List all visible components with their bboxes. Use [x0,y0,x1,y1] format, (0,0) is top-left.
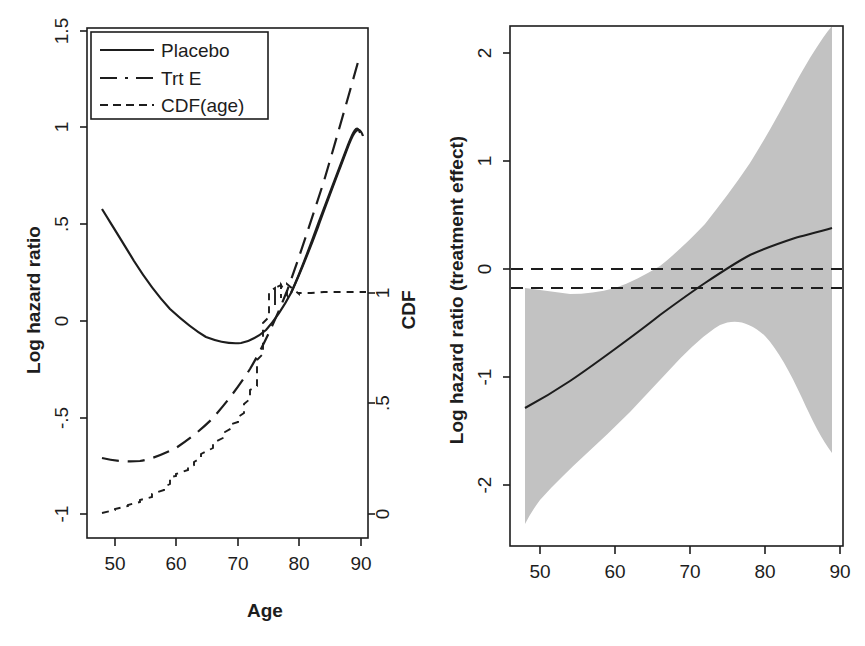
left-ytick-1: 1 [51,122,72,133]
left-ytick-neg1: -1 [51,506,72,523]
right-xtick-70: 70 [679,561,700,582]
left-ytick-p5: .5 [51,216,72,232]
legend-label-cdf-age: CDF(age) [161,95,244,116]
right-ytick-neg2: -2 [474,477,495,494]
left-xtick-60: 60 [165,553,186,574]
left-xtick-70: 70 [227,553,248,574]
legend-label-placebo: Placebo [161,40,230,61]
two-panel-figure: 1.5 1 .5 0 -.5 -1 Log hazard ratio 1 .5 … [0,0,865,646]
left-ytick-neg-p5: -.5 [51,407,72,429]
right-ytick-neg1: -1 [474,369,495,386]
left-panel-secondary-axis-title: CDF [398,290,419,329]
shared-x-axis-title: Age [247,600,283,621]
cdf-tick-0: 0 [372,509,393,520]
left-ytick-0: 0 [51,316,72,327]
right-xtick-90: 90 [829,561,850,582]
legend-label-trt-e: Trt E [161,68,201,89]
right-xtick-60: 60 [604,561,625,582]
right-ytick-2: 2 [474,48,495,59]
left-y-axis-title: Log hazard ratio [23,226,44,374]
right-ytick-1: 1 [474,156,495,167]
right-xtick-50: 50 [529,561,550,582]
right-ytick-0: 0 [474,264,495,275]
left-xtick-50: 50 [104,553,125,574]
left-ytick-1p5: 1.5 [51,18,72,44]
left-xtick-90: 90 [350,553,371,574]
left-panel-legend[interactable]: Placebo Trt E CDF(age) [91,32,268,119]
right-y-axis-title: Log hazard ratio (treatment effect) [446,136,467,444]
cdf-tick-1: 1 [372,288,393,299]
figure-canvas: 1.5 1 .5 0 -.5 -1 Log hazard ratio 1 .5 … [0,0,865,646]
cdf-tick-p5: .5 [372,395,393,411]
right-xtick-80: 80 [754,561,775,582]
left-xtick-80: 80 [288,553,309,574]
